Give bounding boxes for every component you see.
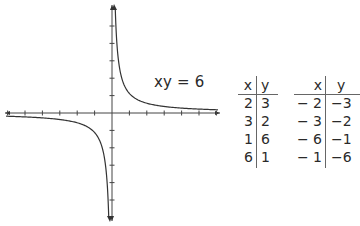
table-row: − 1 −6	[0, 148, 360, 166]
table-row: − 6 −1	[0, 130, 360, 148]
table-header: x y	[0, 76, 360, 94]
table-row: − 2 −3	[0, 94, 360, 112]
xy-table-negative: x y − 2 −3 − 3 −2 − 6 −1 − 1 −6	[0, 0, 360, 226]
cell-y: −3	[331, 94, 357, 112]
table-row: − 3 −2	[0, 112, 360, 130]
cell-x: − 2	[290, 94, 322, 112]
cell-x: − 3	[290, 112, 322, 130]
cell-y: −2	[331, 112, 357, 130]
cell-y: −1	[331, 130, 357, 148]
cell-x: − 1	[290, 148, 322, 166]
header-x: x	[310, 76, 322, 94]
cell-x: − 6	[290, 130, 322, 148]
header-y: y	[337, 76, 349, 94]
cell-y: −6	[331, 148, 357, 166]
